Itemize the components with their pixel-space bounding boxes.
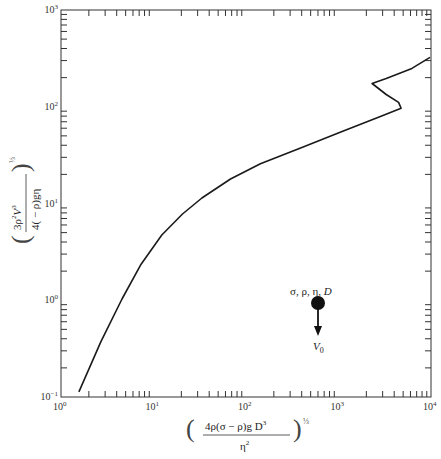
y-tick-label: 100: [45, 293, 59, 305]
y-title-numerator: 3ρ2V3: [10, 205, 23, 230]
chart: 100101102103104 10−1100101102103 σ, ρ, η…: [0, 0, 441, 459]
arrow-down-icon: [314, 326, 322, 336]
x-tick-labels: 100101102103104: [53, 400, 437, 412]
x-tick-label: 103: [331, 400, 345, 412]
x-tick-label: 100: [53, 400, 67, 412]
x-tick-label: 104: [423, 400, 437, 412]
velocity-label: V0: [313, 340, 324, 355]
x-title-power: ⅓: [303, 417, 309, 426]
y-tick-label: 102: [45, 100, 59, 112]
inset-falling-sphere: σ, ρ, η, D V0: [290, 285, 332, 355]
x-title-paren-left: (: [186, 414, 195, 443]
y-title-power: ⅓: [8, 157, 17, 163]
y-axis-title: ( 3ρ2V3 4( − ρ)gη ) ⅓: [6, 157, 42, 244]
y-tick-label: 101: [45, 197, 59, 209]
y-tick-label: 103: [45, 3, 59, 15]
x-axis-title: ( 4ρ(σ − ρ)g D3 η2 ) ⅓: [186, 414, 309, 452]
x-title-paren-right: ): [293, 414, 302, 443]
x-title-numerator: 4ρ(σ − ρ)g D3: [205, 419, 267, 433]
x-tick-label: 101: [146, 400, 160, 412]
inset-params-label: σ, ρ, η, D: [290, 285, 332, 297]
x-tick-label: 102: [238, 400, 252, 412]
plot-frame: [61, 10, 431, 397]
y-tick-labels: 10−1100101102103: [41, 3, 59, 402]
y-title-paren-right: ): [6, 163, 35, 172]
sphere-icon: [311, 296, 325, 310]
data-line: [79, 57, 430, 392]
y-title-denominator: 4( − ρ)gη: [29, 188, 42, 230]
y-title-paren-left: (: [6, 235, 35, 244]
minor-ticks: [61, 10, 431, 397]
x-title-denominator: η2: [240, 439, 250, 452]
